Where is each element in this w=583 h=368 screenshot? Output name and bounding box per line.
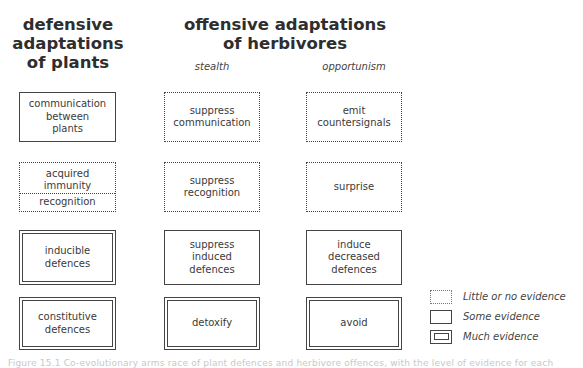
box-acquired-immunity-recognition: acquired immunity recognition	[19, 162, 116, 212]
box-surprise: surprise	[306, 162, 402, 212]
box-constitutive-defences: constitutive defences	[19, 297, 116, 350]
box-suppress-induced-defences: suppress induced defences	[164, 230, 260, 285]
box-detoxify: detoxify	[164, 297, 260, 350]
legend-label: Some evidence	[463, 311, 540, 322]
box-label: avoid	[340, 317, 367, 330]
legend-label: Much evidence	[463, 331, 538, 342]
box-label: detoxify	[192, 317, 232, 330]
subheading-opportunism: opportunism	[306, 61, 402, 72]
box-suppress-communication: suppress communication	[164, 92, 260, 142]
figure-caption: Figure 15.1 Co-evolutionary arms race of…	[8, 358, 553, 368]
box-label: induce decreased defences	[328, 239, 380, 277]
box-label: inducible defences	[45, 245, 90, 270]
subheading-stealth: stealth	[164, 61, 260, 72]
box-label: suppress recognition	[184, 175, 240, 200]
box-induce-decreased-defences: induce decreased defences	[306, 230, 402, 285]
box-label: constitutive defences	[38, 311, 97, 336]
legend-item-some: Some evidence	[430, 307, 566, 326]
solid-box-icon	[430, 310, 452, 324]
box-label: emit countersignals	[317, 105, 390, 130]
legend-item-little: Little or no evidence	[430, 287, 566, 306]
legend-item-much: Much evidence	[430, 327, 566, 346]
box-label: suppress communication	[173, 105, 250, 130]
dotted-box-icon	[430, 290, 452, 304]
legend: Little or no evidence Some evidence Much…	[430, 287, 566, 347]
heading-herbivore-offences: offensive adaptations of herbivores	[170, 15, 400, 53]
box-label: recognition	[39, 196, 95, 209]
box-label: suppress induced defences	[189, 239, 234, 277]
box-label: communication between plants	[29, 98, 106, 136]
box-inducible-defences: inducible defences	[19, 230, 116, 285]
double-box-icon	[430, 330, 452, 344]
box-avoid: avoid	[306, 297, 402, 350]
legend-label: Little or no evidence	[463, 291, 566, 302]
box-label: acquired immunity	[44, 168, 92, 193]
box-communication-between-plants: communication between plants	[19, 92, 116, 142]
box-section-recognition: recognition	[20, 194, 115, 211]
box-emit-countersignals: emit countersignals	[306, 92, 402, 142]
box-section-acquired-immunity: acquired immunity	[20, 163, 115, 194]
box-label: surprise	[334, 181, 374, 194]
heading-plant-defences: defensive adaptations of plants	[8, 15, 128, 72]
box-suppress-recognition: suppress recognition	[164, 162, 260, 212]
